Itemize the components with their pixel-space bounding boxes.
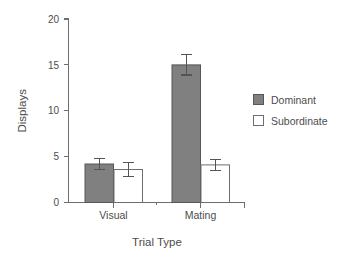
y-tick-label-15: 15 xyxy=(48,60,60,71)
y-tick-label-10: 10 xyxy=(48,105,60,116)
x-axis-title: Trial Type xyxy=(132,236,182,248)
chart-canvas: 0 5 10 15 20 Displays xyxy=(0,0,353,261)
legend-swatch-subordinate xyxy=(254,116,264,126)
x-category-label-visual: Visual xyxy=(99,209,127,221)
y-axis-ticks xyxy=(64,19,69,203)
bar-mating-dominant xyxy=(172,65,201,203)
legend-label-subordinate: Subordinate xyxy=(271,115,328,127)
legend-label-dominant: Dominant xyxy=(271,94,316,106)
y-tick-label-5: 5 xyxy=(53,151,59,162)
legend-swatch-dominant xyxy=(254,95,264,105)
chart-legend: Dominant Subordinate xyxy=(254,94,328,127)
x-axis-ticks xyxy=(114,203,245,209)
y-tick-label-20: 20 xyxy=(48,14,60,25)
y-tick-label-0: 0 xyxy=(53,197,59,208)
bar-chart-figure: 0 5 10 15 20 Displays xyxy=(0,0,353,261)
x-category-label-mating: Mating xyxy=(185,209,217,221)
y-axis-title: Displays xyxy=(16,89,28,133)
